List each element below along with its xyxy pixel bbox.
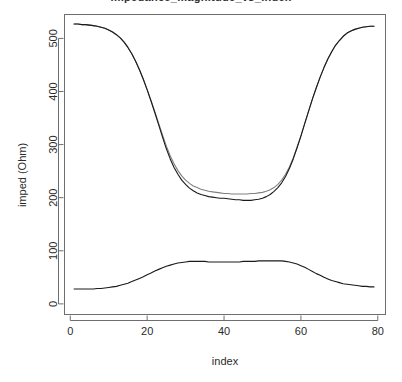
y-axis-tick-label: 400 bbox=[48, 82, 60, 100]
y-axis-tick-label: 200 bbox=[48, 189, 60, 207]
plot-frame bbox=[65, 15, 386, 315]
y-axis: 0100200300400500 bbox=[48, 29, 64, 307]
x-axis-tick-label: 80 bbox=[372, 325, 384, 337]
x-axis: 020406080 bbox=[67, 316, 384, 337]
x-axis-tick-label: 60 bbox=[295, 325, 307, 337]
series-line-imped-measured bbox=[74, 24, 374, 194]
x-axis-title: index bbox=[212, 355, 239, 367]
data-series-group bbox=[74, 24, 374, 289]
y-axis-tick-label: 500 bbox=[48, 29, 60, 47]
x-axis-tick-label: 40 bbox=[218, 325, 230, 337]
y-axis-title: imped (Ohm) bbox=[16, 143, 28, 207]
x-axis-tick-label: 0 bbox=[67, 325, 73, 337]
x-axis-tick-label: 20 bbox=[141, 325, 153, 337]
y-axis-tick-label: 100 bbox=[48, 242, 60, 260]
chart-container: impedance_magnitude_vs_index 01002003004… bbox=[0, 0, 402, 382]
series-line-imped-phase-component bbox=[74, 261, 374, 289]
plot-box-border bbox=[65, 15, 386, 315]
y-axis-tick-label: 0 bbox=[48, 301, 60, 307]
series-line-imped-fitted bbox=[74, 24, 374, 200]
chart-plot-area: 0100200300400500 020406080 index imped (… bbox=[0, 0, 402, 382]
y-axis-tick-label: 300 bbox=[48, 135, 60, 153]
